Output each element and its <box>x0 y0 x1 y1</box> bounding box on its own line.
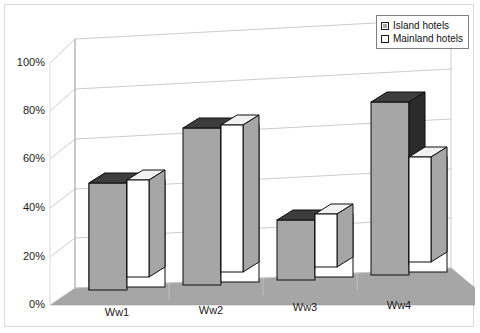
y-tick-label-40: 40% <box>9 201 45 213</box>
x-tick-label-ww2: Ww2 <box>171 304 251 316</box>
island-swatch-icon <box>381 22 389 30</box>
chart-canvas <box>5 5 475 328</box>
bar-ww4-mainland[interactable] <box>409 147 447 272</box>
bar-ww3-mainland[interactable] <box>315 204 353 277</box>
mainland-swatch-icon <box>381 35 389 43</box>
y-tick-label-80: 80% <box>9 104 45 116</box>
y-tick-label-60: 60% <box>9 152 45 164</box>
legend-label-island: Island hotels <box>393 19 449 32</box>
x-tick-label-ww4: Ww4 <box>359 299 439 311</box>
chart-frame: 100% 80% 60% 40% 20% 0% Ww1 Ww2 Ww3 Ww4 … <box>4 4 474 327</box>
bar-ww2-mainland[interactable] <box>221 115 259 282</box>
y-tick-label-100: 100% <box>9 56 45 68</box>
left-wall <box>50 39 75 305</box>
chart-legend: Island hotels Mainland hotels <box>376 15 469 49</box>
legend-item-mainland[interactable]: Mainland hotels <box>381 32 463 45</box>
x-tick-label-ww3: Ww3 <box>265 301 345 313</box>
legend-item-island[interactable]: Island hotels <box>381 19 463 32</box>
legend-label-mainland: Mainland hotels <box>393 32 463 45</box>
x-tick-label-ww1: Ww1 <box>77 306 157 318</box>
y-tick-label-0: 0% <box>9 298 45 310</box>
y-tick-label-20: 20% <box>9 250 45 262</box>
bar-ww1-mainland[interactable] <box>127 170 165 287</box>
plot-area: 100% 80% 60% 40% 20% 0% Ww1 Ww2 Ww3 Ww4 … <box>5 5 475 328</box>
